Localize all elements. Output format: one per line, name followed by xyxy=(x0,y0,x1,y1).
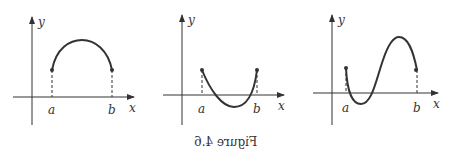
curve xyxy=(346,37,417,104)
y-label: y xyxy=(187,13,195,27)
a-label: a xyxy=(198,102,205,116)
b-label: b xyxy=(413,101,421,115)
endpoint-b xyxy=(255,68,259,72)
endpoint-b xyxy=(110,68,114,72)
endpoint-a xyxy=(200,68,204,72)
endpoint-a xyxy=(50,68,54,72)
x-label: x xyxy=(433,97,440,111)
endpoint-b xyxy=(414,68,418,72)
curve xyxy=(202,70,257,107)
panel-2: y x a b xyxy=(163,13,285,125)
a-label: a xyxy=(48,103,55,117)
b-label: b xyxy=(108,103,116,117)
endpoint-a xyxy=(344,66,348,70)
a-label: a xyxy=(342,101,349,115)
figure-caption: Figure 4.6 xyxy=(0,135,451,149)
x-label: x xyxy=(278,99,285,113)
y-label: y xyxy=(337,13,345,27)
panel-1: y x a b xyxy=(13,15,136,125)
b-label: b xyxy=(253,102,261,116)
curve xyxy=(52,40,112,70)
y-label: y xyxy=(37,15,45,29)
x-label: x xyxy=(129,101,136,115)
panel-3: y x a b xyxy=(313,13,440,125)
